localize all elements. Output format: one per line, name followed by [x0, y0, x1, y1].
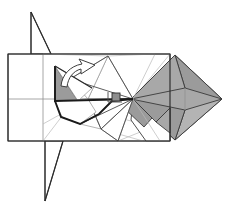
reference-point-square [112, 93, 120, 101]
origami-figure [0, 0, 227, 209]
origami-diagram-root: Origami folding step diagram origami-fol… [0, 0, 227, 209]
